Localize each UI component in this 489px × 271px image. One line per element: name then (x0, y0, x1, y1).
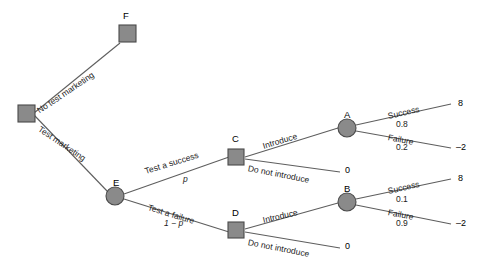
decision-tree-canvas (0, 0, 489, 271)
node-label-c: C (232, 134, 239, 144)
payoff-d-no-introduce: 0 (345, 242, 350, 251)
payoff-b-success: 8 (458, 174, 463, 183)
node-f[interactable] (119, 25, 136, 42)
node-a[interactable] (338, 119, 356, 137)
branch-prob-test-a-success: p (183, 175, 188, 184)
node-label-b: B (344, 184, 350, 194)
node-d[interactable] (228, 222, 244, 238)
payoff-a-success: 8 (458, 99, 463, 108)
decision-tree-diagram: F E C D A B No test marketing Test marke… (0, 0, 489, 271)
branch-prob-failure-b: 0.9 (396, 219, 408, 228)
node-label-f: F (123, 11, 129, 21)
node-label-d: D (232, 208, 239, 218)
payoff-b-failure: –2 (456, 219, 466, 228)
node-e[interactable] (106, 187, 124, 205)
branch-prob-test-a-failure: 1 − p (164, 219, 183, 228)
node-c[interactable] (228, 149, 244, 165)
node-b[interactable] (338, 193, 356, 211)
node-root[interactable] (18, 105, 35, 122)
branch-prob-success-b: 0.1 (396, 195, 408, 204)
branch-prob-failure-a: 0.2 (396, 143, 408, 152)
branch-prob-success-a: 0.8 (396, 120, 408, 129)
node-label-a: A (344, 110, 350, 120)
payoff-a-failure: –2 (456, 143, 466, 152)
node-label-e: E (113, 178, 119, 188)
payoff-c-no-introduce: 0 (345, 166, 350, 175)
